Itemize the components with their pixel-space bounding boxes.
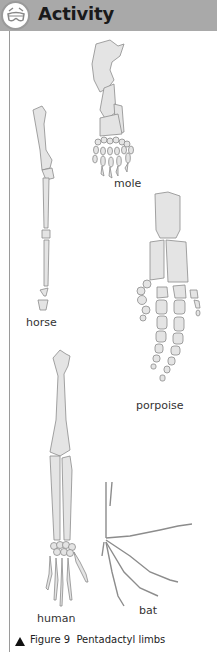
figure-caption: Figure 9 Pentadactyl limbs xyxy=(30,634,165,645)
bat-limb xyxy=(102,482,192,606)
activity-header: Activity xyxy=(0,0,217,31)
activity-badge xyxy=(1,1,30,30)
horse-limb xyxy=(33,106,54,310)
caption-marker-icon xyxy=(15,637,25,646)
mole-limb xyxy=(92,40,134,178)
label-porpoise: porpoise xyxy=(136,399,184,412)
figure-number: Figure 9 xyxy=(30,634,70,645)
label-human: human xyxy=(37,612,75,625)
label-horse: horse xyxy=(26,316,57,329)
label-bat: bat xyxy=(139,604,157,617)
human-limb xyxy=(46,350,88,606)
figure-caption-text: Pentadactyl limbs xyxy=(76,634,165,645)
label-mole: mole xyxy=(114,177,141,190)
activity-title: Activity xyxy=(38,3,114,24)
side-rule xyxy=(9,31,10,652)
pentadactyl-limbs-illustration xyxy=(12,32,217,632)
goggles-icon xyxy=(6,7,26,25)
porpoise-limb xyxy=(137,192,200,381)
